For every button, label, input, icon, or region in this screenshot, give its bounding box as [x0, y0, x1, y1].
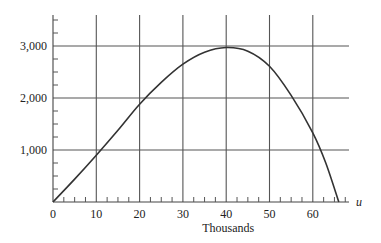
x-tick-label: 50 — [264, 207, 276, 221]
x-tick-label: 10 — [90, 207, 102, 221]
x-axis-title: Thousands — [202, 221, 254, 235]
axis-variable-label: u — [356, 195, 362, 209]
x-tick-label: 40 — [220, 207, 232, 221]
x-tick-label: 20 — [134, 207, 146, 221]
grid-lines — [53, 15, 349, 202]
y-tick-label: 3,000 — [20, 39, 47, 53]
x-tick-label: 0 — [50, 207, 56, 221]
x-tick-label: 30 — [177, 207, 189, 221]
x-tick-label: 60 — [307, 207, 319, 221]
axes — [53, 15, 349, 202]
chart: 01020304050601,0002,0003,000Thousandsu — [0, 0, 381, 243]
y-tick-label: 2,000 — [20, 91, 47, 105]
axis-labels: 01020304050601,0002,0003,000Thousandsu — [20, 39, 362, 235]
y-tick-label: 1,000 — [20, 143, 47, 157]
